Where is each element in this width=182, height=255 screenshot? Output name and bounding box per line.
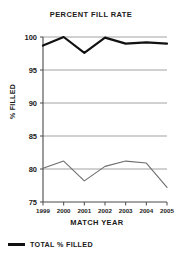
data-series	[43, 37, 167, 187]
legend-line-swatch	[8, 243, 25, 246]
y-tick-label-85: 85	[15, 132, 37, 141]
y-tick-label-80: 80	[15, 165, 37, 174]
y-tick-label-100: 100	[15, 33, 37, 42]
axis-ticks	[40, 37, 167, 206]
x-tick-label-2005: 2005	[155, 207, 179, 214]
y-tick-label-90: 90	[15, 99, 37, 108]
gridlines	[43, 37, 167, 169]
series-line-1	[43, 161, 167, 187]
series-line-0	[43, 37, 167, 53]
percent-fill-rate-chart: PERCENT FILL RATE % FILLED MATCH YEAR 75…	[0, 0, 182, 255]
legend-item-label: TOTAL % FILLED	[30, 240, 93, 249]
axis-lines	[43, 37, 167, 202]
chart-legend: TOTAL % FILLED	[8, 240, 93, 249]
y-tick-label-75: 75	[15, 198, 37, 207]
y-tick-label-95: 95	[15, 66, 37, 75]
